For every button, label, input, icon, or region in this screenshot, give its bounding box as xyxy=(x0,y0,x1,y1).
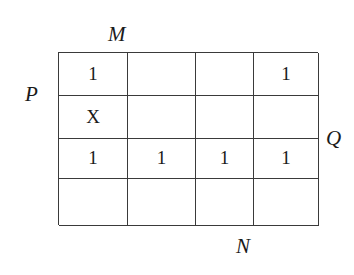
kmap-cell-r1c4[interactable]: 1 xyxy=(254,53,319,96)
kmap-cell-r1c2[interactable] xyxy=(128,53,196,96)
kmap-cell-r3c2[interactable]: 1 xyxy=(128,139,196,179)
kmap-cell-r1c1[interactable]: 1 xyxy=(59,53,128,96)
kmap-diagram-page: M P Q N 1 1 X 1 1 1 1 xyxy=(0,0,354,275)
kmap-cell-r2c1[interactable]: X xyxy=(59,96,128,139)
kmap-grid: 1 1 X 1 1 1 1 xyxy=(58,52,318,225)
kmap-label-top-m: M xyxy=(108,24,126,45)
kmap-cell-r4c3[interactable] xyxy=(196,179,254,226)
kmap-label-right-q: Q xyxy=(326,128,341,149)
kmap-label-left-p: P xyxy=(25,84,38,105)
kmap-cell-r3c1[interactable]: 1 xyxy=(59,139,128,179)
kmap-cell-r1c3[interactable] xyxy=(196,53,254,96)
kmap-cell-r3c3[interactable]: 1 xyxy=(196,139,254,179)
kmap-cell-r4c1[interactable] xyxy=(59,179,128,226)
kmap-cell-r2c4[interactable] xyxy=(254,96,319,139)
kmap-cell-r2c2[interactable] xyxy=(128,96,196,139)
kmap-cell-r4c4[interactable] xyxy=(254,179,319,226)
kmap-cell-r2c3[interactable] xyxy=(196,96,254,139)
kmap-cell-r4c2[interactable] xyxy=(128,179,196,226)
kmap-label-bottom-n: N xyxy=(236,236,250,257)
kmap-cell-r3c4[interactable]: 1 xyxy=(254,139,319,179)
